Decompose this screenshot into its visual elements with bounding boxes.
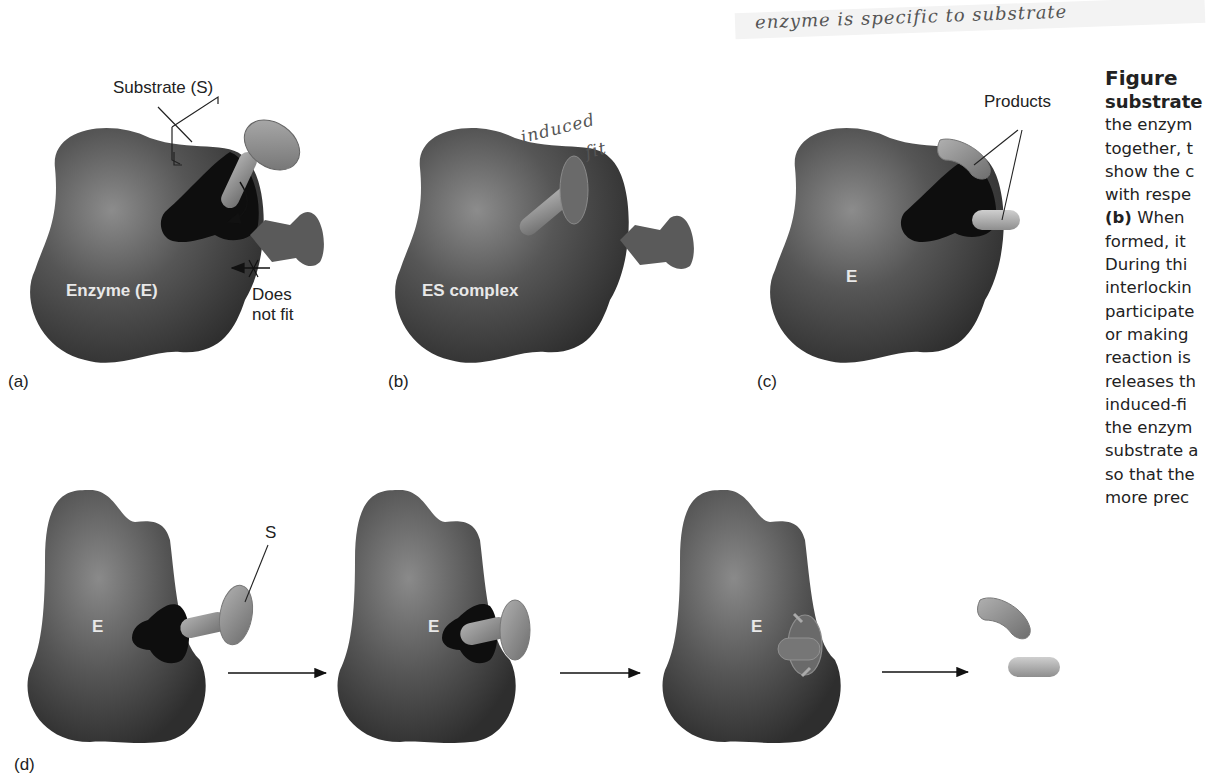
caption-line: releases th — [1105, 370, 1210, 393]
substrate-label-d: S — [265, 523, 276, 543]
caption-when: When — [1132, 208, 1185, 227]
caption-line: substrate a — [1105, 439, 1210, 462]
caption-line: the enzym — [1105, 416, 1210, 439]
caption-line: or making — [1105, 323, 1210, 346]
caption-line: the enzym — [1105, 113, 1210, 136]
caption-line: together, t — [1105, 137, 1210, 160]
caption-line: During thi — [1105, 253, 1210, 276]
does-not-fit-label-line1: Does — [252, 285, 292, 305]
caption-line-b: (b) When — [1105, 206, 1210, 229]
caption-line: more prec — [1105, 486, 1210, 509]
enzyme-label-d3: E — [751, 617, 762, 637]
enzyme-label-d2: E — [428, 617, 439, 637]
caption-line: with respe — [1105, 183, 1210, 206]
enzyme-label-c: E — [846, 267, 857, 287]
enzyme-b — [395, 128, 629, 363]
caption-line: reaction is — [1105, 346, 1210, 369]
caption-line: interlockin — [1105, 276, 1210, 299]
caption-subtitle: substrate — [1105, 90, 1210, 113]
caption-line: formed, it — [1105, 230, 1210, 253]
panel-label-c: (c) — [757, 372, 777, 392]
enzyme-label-d1: E — [92, 617, 103, 637]
panel-label-d: (d) — [14, 755, 35, 775]
products-d — [978, 598, 1060, 677]
products-label: Products — [984, 92, 1051, 112]
caption-line: participate — [1105, 300, 1210, 323]
enzyme-a — [30, 128, 264, 363]
caption-line: so that the — [1105, 463, 1210, 486]
panel-label-b: (b) — [388, 372, 409, 392]
non-fitting-molecule-b — [620, 216, 694, 269]
enzyme-d1 — [28, 490, 257, 743]
es-complex-label: ES complex — [422, 281, 518, 301]
caption-line: induced-fi — [1105, 393, 1210, 416]
enzyme-label-a: Enzyme (E) — [66, 281, 158, 301]
does-not-fit-label-line2: not fit — [252, 305, 294, 325]
figure-caption: Figure substrate the enzym together, t s… — [1105, 66, 1210, 509]
caption-title: Figure — [1105, 66, 1210, 90]
panel-label-a: (a) — [8, 372, 29, 392]
caption-line: show the c — [1105, 160, 1210, 183]
caption-bold-b: (b) — [1105, 208, 1132, 227]
substrate-label: Substrate (S) — [113, 78, 213, 98]
